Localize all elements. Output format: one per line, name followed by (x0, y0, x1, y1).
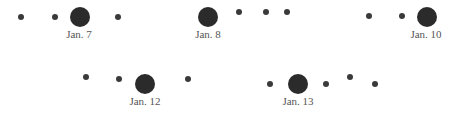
small-dot (399, 13, 405, 19)
small-dot (267, 81, 273, 87)
small-dot (372, 81, 378, 87)
small-dot (323, 81, 329, 87)
date-marker-dot (198, 7, 218, 27)
small-dot (284, 9, 290, 15)
date-marker-dot (70, 7, 90, 27)
small-dot (115, 14, 121, 20)
date-label: Jan. 8 (195, 28, 221, 40)
small-dot (366, 13, 372, 19)
date-marker-dot (288, 74, 308, 94)
date-marker-dot (417, 7, 437, 27)
date-label: Jan. 12 (129, 95, 160, 107)
small-dot (83, 74, 89, 80)
small-dot (347, 74, 353, 80)
small-dot (18, 14, 24, 20)
small-dot (263, 9, 269, 15)
date-label: Jan. 13 (282, 95, 313, 107)
small-dot (185, 76, 191, 82)
small-dot (236, 9, 242, 15)
date-label: Jan. 10 (410, 28, 441, 40)
date-marker-dot (135, 74, 155, 94)
date-label: Jan. 7 (66, 28, 92, 40)
small-dot (116, 76, 122, 82)
small-dot (52, 14, 58, 20)
